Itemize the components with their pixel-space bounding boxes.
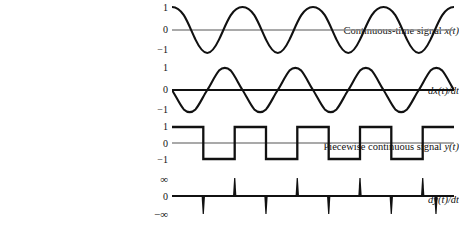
y-axis-ticks-piecewise-continuous-signal: 1 0 −1 — [150, 119, 168, 171]
y-axis-ticks-continuous-time-signal: 1 0 −1 — [150, 0, 168, 58]
y-tick-positive-one: 1 — [163, 122, 168, 132]
y-tick-negative-one: −1 — [157, 45, 168, 55]
plot-row-continuous-time-signal: Continuous-time signal x(t) 1 0 −1 — [0, 0, 459, 58]
y-tick-negative-infinity: −∞ — [154, 209, 168, 219]
plot-row-derivative-of-y: dy(t)/dt ∞ 0 −∞ — [0, 172, 459, 227]
impulse-negative-1 — [202, 196, 205, 214]
y-tick-negative-one: −1 — [157, 105, 168, 115]
y-tick-zero: 0 — [163, 192, 168, 202]
y-tick-negative-one: −1 — [157, 155, 168, 165]
plot-piecewise-continuous-signal — [172, 119, 454, 171]
signal-derivative-figure: Continuous-time signal x(t) 1 0 −1 dx(t)… — [0, 0, 459, 227]
plot-derivative-of-x — [172, 60, 454, 118]
impulse-negative-4 — [390, 196, 393, 214]
plot-row-piecewise-continuous-signal: Piecewise continuous signal y(t) 1 0 −1 — [0, 119, 459, 171]
y-tick-positive-infinity: ∞ — [160, 174, 168, 184]
plot-derivative-of-y — [172, 172, 454, 227]
y-axis-ticks-derivative-of-x: 1 0 −1 — [150, 60, 168, 118]
impulse-positive-2 — [296, 178, 299, 196]
plot-row-derivative-of-x: dx(t)/dt 1 0 −1 — [0, 60, 459, 118]
y-tick-zero: 0 — [163, 85, 168, 95]
impulse-negative-3 — [327, 196, 330, 214]
y-axis-ticks-derivative-of-y: ∞ 0 −∞ — [150, 172, 168, 227]
impulse-negative-2 — [264, 196, 267, 214]
y-tick-zero: 0 — [163, 25, 168, 35]
y-tick-zero: 0 — [163, 139, 168, 149]
y-tick-positive-one: 1 — [163, 3, 168, 13]
impulse-negative-5 — [434, 196, 437, 214]
plot-continuous-time-signal — [172, 0, 454, 58]
y-tick-positive-one: 1 — [163, 63, 168, 73]
impulse-positive-3 — [358, 178, 361, 196]
impulse-positive-1 — [233, 178, 236, 196]
impulse-positive-4 — [421, 178, 424, 196]
